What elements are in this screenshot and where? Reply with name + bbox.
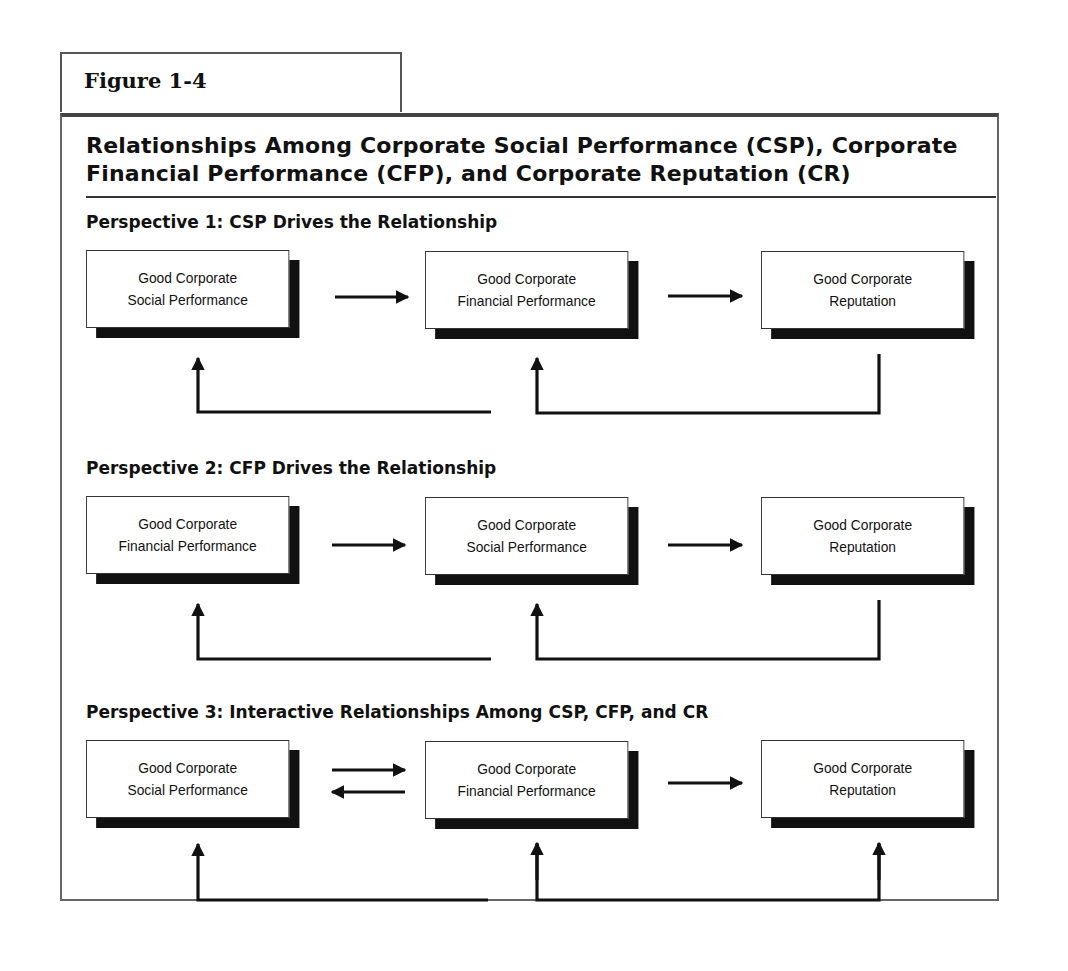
box-label-line-1: Good Corporate	[813, 757, 912, 779]
box-label-line-1: Good Corporate	[813, 268, 912, 290]
figure-title: Relationships Among Corporate Social Per…	[86, 132, 986, 188]
box-label-line-1: Good Corporate	[477, 514, 576, 536]
p2-box-cr: Good Corporate Reputation	[761, 497, 964, 575]
p1-box-csp: Good Corporate Social Performance	[86, 250, 289, 328]
box-label-line-1: Good Corporate	[477, 758, 576, 780]
perspective-2-heading: Perspective 2: CFP Drives the Relationsh…	[86, 458, 496, 478]
perspective-1-heading: Perspective 1: CSP Drives the Relationsh…	[86, 212, 497, 232]
perspective-3-heading: Perspective 3: Interactive Relationships…	[86, 702, 708, 722]
box-label-line-2: Reputation	[829, 290, 896, 312]
p1-box-cr: Good Corporate Reputation	[761, 251, 964, 329]
figure-label-tab: Figure 1-4	[60, 52, 402, 112]
p3-box-cr: Good Corporate Reputation	[761, 740, 964, 818]
box-label-line-1: Good Corporate	[813, 514, 912, 536]
box-label-line-2: Financial Performance	[458, 780, 596, 802]
p3-box-cfp: Good Corporate Financial Performance	[425, 741, 628, 819]
p1-box-cfp: Good Corporate Financial Performance	[425, 251, 628, 329]
box-label-line-2: Social Performance	[127, 779, 247, 801]
title-divider	[86, 196, 996, 198]
box-label-line-2: Social Performance	[466, 536, 586, 558]
box-label-line-1: Good Corporate	[138, 757, 237, 779]
box-label-line-2: Reputation	[829, 536, 896, 558]
box-label-line-1: Good Corporate	[138, 267, 237, 289]
figure-label: Figure 1-4	[84, 68, 207, 93]
p3-box-csp: Good Corporate Social Performance	[86, 740, 289, 818]
p2-box-csp: Good Corporate Social Performance	[425, 497, 628, 575]
box-label-line-1: Good Corporate	[477, 268, 576, 290]
box-label-line-2: Reputation	[829, 779, 896, 801]
figure-title-line-2: Financial Performance (CFP), and Corpora…	[86, 160, 986, 188]
p2-box-cfp: Good Corporate Financial Performance	[86, 496, 289, 574]
box-label-line-1: Good Corporate	[138, 513, 237, 535]
box-label-line-2: Financial Performance	[458, 290, 596, 312]
figure-title-line-1: Relationships Among Corporate Social Per…	[86, 132, 986, 160]
box-label-line-2: Social Performance	[127, 289, 247, 311]
box-label-line-2: Financial Performance	[119, 535, 257, 557]
